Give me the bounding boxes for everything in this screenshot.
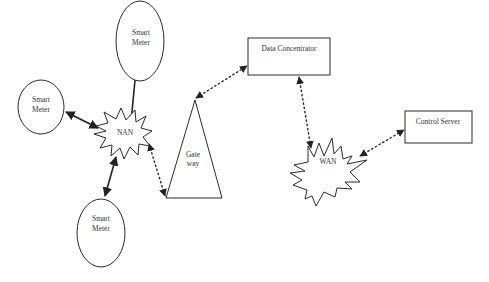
nan-label: NAN: [117, 128, 134, 137]
control-server-label: Control Server: [416, 117, 461, 126]
smart-meter-top-label-2: Meter: [132, 38, 150, 47]
edge-nan-gateway: [149, 144, 165, 196]
control-server: Control Server: [405, 111, 472, 143]
wan-cloud: WAN: [290, 138, 367, 206]
gateway-label-2: way: [187, 159, 200, 168]
edge-gateway-concentrator: [196, 66, 247, 98]
wan-starburst: [290, 138, 367, 206]
smart-meter-bottom: Smart Meter: [77, 199, 125, 267]
smart-meter-bottom-label-2: Meter: [92, 224, 110, 233]
smart-grid-network-diagram: Smart Meter Smart Meter Smart Meter NAN …: [0, 0, 489, 282]
smart-meter-left: Smart Meter: [18, 80, 64, 134]
edge-wan-control-server: [360, 130, 404, 156]
smart-meter-bottom-ellipse: [77, 199, 125, 267]
smart-meter-left-label-1: Smart: [32, 95, 51, 104]
smart-meter-top: Smart Meter: [116, 1, 164, 81]
gateway-triangle: [166, 100, 222, 198]
control-server-box: [405, 111, 472, 143]
data-concentrator: Data Concentrator: [248, 38, 330, 75]
gateway-label-1: Gate: [186, 150, 201, 159]
smart-meter-bottom-label-1: Smart: [92, 214, 111, 223]
edge-concentrator-wan: [299, 77, 311, 148]
nan-cloud: NAN: [94, 108, 152, 159]
gateway: Gate way: [166, 100, 222, 198]
data-concentrator-label: Data Concentrator: [261, 44, 317, 53]
smart-meter-top-label-1: Smart: [132, 28, 151, 37]
edge-nan-bottom-meter: [105, 157, 116, 196]
wan-label: WAN: [319, 157, 337, 166]
edge-left-meter-nan: [66, 112, 98, 128]
smart-meter-left-label-2: Meter: [32, 105, 50, 114]
